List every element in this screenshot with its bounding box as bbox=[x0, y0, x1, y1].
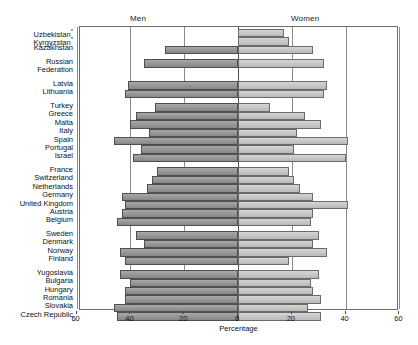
men-panel-title: Men bbox=[130, 14, 146, 23]
x-tick-0-zero: 0 bbox=[235, 314, 239, 323]
bar-men bbox=[133, 154, 238, 162]
bar-men bbox=[120, 248, 238, 256]
bar-women bbox=[238, 295, 321, 303]
bar-women bbox=[238, 81, 327, 89]
bar-men bbox=[117, 218, 238, 226]
bar-men bbox=[144, 240, 238, 248]
bar-women bbox=[238, 193, 313, 201]
x-tick-mark bbox=[129, 311, 130, 314]
bar-women bbox=[238, 154, 346, 162]
table-row bbox=[80, 90, 397, 98]
x-tick-mark bbox=[237, 311, 238, 314]
bar-women bbox=[238, 240, 313, 248]
bar-men bbox=[114, 137, 238, 145]
table-row bbox=[80, 231, 397, 239]
bar-women bbox=[238, 257, 289, 265]
x-tick-mark bbox=[345, 311, 346, 314]
bar-men bbox=[122, 193, 238, 201]
bar-women bbox=[238, 209, 313, 217]
category-label: Kazakhstan bbox=[34, 43, 73, 52]
bar-men bbox=[125, 201, 238, 209]
x-tick-mark bbox=[398, 311, 399, 314]
bar-women bbox=[238, 37, 289, 45]
table-row bbox=[80, 176, 397, 184]
bar-women bbox=[238, 137, 348, 145]
bar-women bbox=[238, 167, 289, 175]
bar-men bbox=[136, 231, 238, 239]
bar-men bbox=[125, 295, 238, 303]
bar-women bbox=[238, 248, 327, 256]
bar-women bbox=[238, 120, 321, 128]
x-tick-60-women: 60 bbox=[394, 314, 402, 323]
bar-women bbox=[238, 231, 319, 239]
table-row bbox=[80, 129, 397, 137]
category-label: Finland bbox=[48, 254, 73, 263]
table-row bbox=[80, 137, 397, 145]
bar-women bbox=[238, 270, 319, 278]
gridline bbox=[399, 27, 400, 309]
bar-men bbox=[155, 103, 238, 111]
footnote-marker: * bbox=[71, 36, 73, 42]
category-axis-labels: Uzbekistan*Kyrgyzstan*KazakhstanRussianF… bbox=[0, 26, 76, 310]
table-row bbox=[80, 167, 397, 175]
x-tick-20-men: 20 bbox=[179, 314, 187, 323]
table-row bbox=[80, 184, 397, 192]
x-tick-mark bbox=[291, 311, 292, 314]
bar-men bbox=[120, 270, 238, 278]
table-row bbox=[80, 201, 397, 209]
table-row bbox=[80, 240, 397, 248]
women-panel-title: Women bbox=[291, 14, 319, 23]
table-row bbox=[80, 29, 397, 37]
x-tick-40-men: 40 bbox=[125, 314, 133, 323]
bar-women bbox=[238, 176, 294, 184]
bar-men bbox=[136, 112, 238, 120]
bar-men bbox=[147, 184, 238, 192]
table-row bbox=[80, 218, 397, 226]
x-axis-label: Percentage bbox=[79, 324, 398, 333]
plot-area bbox=[79, 26, 398, 310]
category-label: Federation bbox=[37, 65, 73, 74]
x-tick-40-women: 40 bbox=[340, 314, 348, 323]
bar-men bbox=[125, 90, 238, 98]
bar-women bbox=[238, 29, 284, 37]
table-row bbox=[80, 154, 397, 162]
table-row bbox=[80, 295, 397, 303]
category-label: Belgium bbox=[46, 215, 73, 224]
bar-men bbox=[130, 120, 238, 128]
x-tick-mark bbox=[183, 311, 184, 314]
bar-women bbox=[238, 59, 324, 67]
bar-women bbox=[238, 218, 311, 226]
category-label: Lithuania bbox=[43, 87, 73, 96]
bar-men bbox=[125, 257, 238, 265]
bar-women bbox=[238, 279, 311, 287]
bar-women bbox=[238, 201, 348, 209]
table-row bbox=[80, 279, 397, 287]
table-row bbox=[80, 46, 397, 54]
bar-men bbox=[157, 167, 238, 175]
category-label: Israel bbox=[55, 151, 73, 160]
bar-men bbox=[130, 279, 238, 287]
bar-women bbox=[238, 90, 324, 98]
table-row bbox=[80, 209, 397, 217]
table-row bbox=[80, 112, 397, 120]
bar-men bbox=[125, 287, 238, 295]
footnote-marker: * bbox=[71, 28, 73, 34]
bar-men bbox=[144, 59, 238, 67]
table-row bbox=[80, 59, 397, 67]
table-row bbox=[80, 287, 397, 295]
table-row bbox=[80, 270, 397, 278]
bar-women bbox=[238, 46, 313, 54]
bar-women bbox=[238, 145, 294, 153]
table-row bbox=[80, 37, 397, 45]
category-label: Czech Republic bbox=[20, 310, 73, 319]
x-tick-mark bbox=[76, 311, 77, 314]
bar-men bbox=[128, 81, 238, 89]
bar-women bbox=[238, 287, 313, 295]
table-row bbox=[80, 145, 397, 153]
bar-women bbox=[238, 184, 300, 192]
table-row bbox=[80, 257, 397, 265]
table-row bbox=[80, 81, 397, 89]
bar-men bbox=[165, 46, 238, 54]
bar-men bbox=[141, 145, 238, 153]
bar-men bbox=[152, 176, 238, 184]
